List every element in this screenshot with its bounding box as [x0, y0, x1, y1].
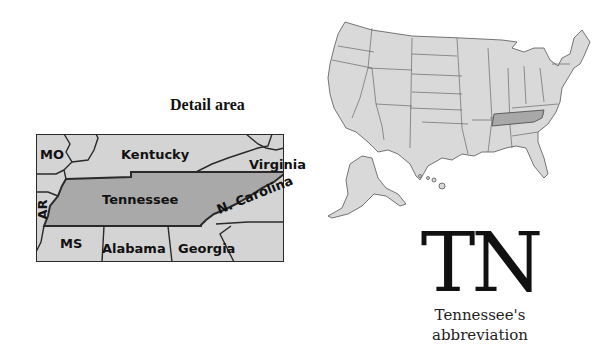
label-ms: MS — [60, 236, 82, 251]
abbreviation-caption-line1: Tennessee's — [390, 306, 570, 324]
abbreviation-caption-line2: abbreviation — [390, 326, 570, 344]
label-georgia: Georgia — [178, 241, 235, 256]
us-map-graphic — [312, 8, 610, 220]
label-virginia: Virginia — [249, 157, 306, 172]
state-abbreviation-block: TN Tennessee's abbreviation — [390, 222, 570, 344]
label-ar: AR — [35, 199, 50, 219]
detail-map: MO Kentucky Virginia AR Tennessee N. Car… — [36, 134, 284, 262]
detail-area-title: Detail area — [170, 96, 245, 114]
label-mo: MO — [40, 147, 64, 162]
label-kentucky: Kentucky — [121, 147, 189, 162]
label-alabama: Alabama — [102, 241, 166, 256]
us-map — [312, 8, 610, 220]
state-abbreviation: TN — [390, 222, 570, 304]
label-tennessee: Tennessee — [102, 192, 178, 207]
